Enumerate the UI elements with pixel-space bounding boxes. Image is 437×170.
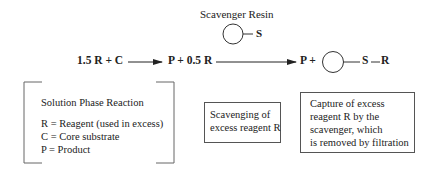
capture-line-1: Capture of excess [310, 97, 385, 110]
legend-c: C = Core substrate [41, 130, 120, 143]
product-p: P + [300, 54, 316, 66]
reactants: 1.5 R + C [77, 54, 123, 66]
scavenger-resin-label: Scavenger Resin [200, 8, 274, 20]
capture-line-3: scavenger, which [310, 123, 382, 136]
resin-s-label: S [256, 27, 262, 39]
product-s: S [362, 54, 368, 66]
scavenging-line-1: Scavenging of [210, 108, 270, 121]
resin-bead-product-icon [323, 52, 344, 73]
capture-line-2: reagent R by the [310, 110, 379, 123]
product-r: R [381, 54, 389, 66]
legend-p: P = Product [41, 143, 90, 156]
capture-line-4: is removed by filtration [310, 136, 409, 149]
intermediate: P + 0.5 R [168, 54, 212, 66]
scavenging-line-2: excess reagent R [210, 121, 281, 134]
solution-bracket-left [24, 82, 42, 163]
solution-title: Solution Phase Reaction [41, 96, 144, 109]
legend-r: R = Reagent (used in excess) [41, 117, 163, 130]
resin-bead-icon [223, 24, 243, 44]
